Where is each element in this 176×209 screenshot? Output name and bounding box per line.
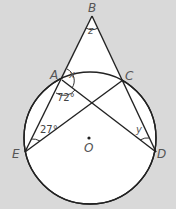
circle-geometry-diagram: B A C E D O z x 72° 27° y (0, 0, 176, 209)
label-o: O (84, 141, 93, 155)
angle-label-z: z (87, 25, 94, 36)
angle-label-x: x (68, 69, 75, 80)
label-e: E (12, 147, 20, 161)
angle-label-72: 72° (57, 92, 75, 103)
angle-label-y: y (135, 124, 143, 135)
label-a: A (49, 68, 58, 82)
label-b: B (88, 1, 96, 15)
angle-label-27: 27° (40, 124, 58, 135)
label-d: D (157, 147, 166, 161)
label-c: C (125, 69, 134, 83)
center-dot (87, 136, 90, 139)
